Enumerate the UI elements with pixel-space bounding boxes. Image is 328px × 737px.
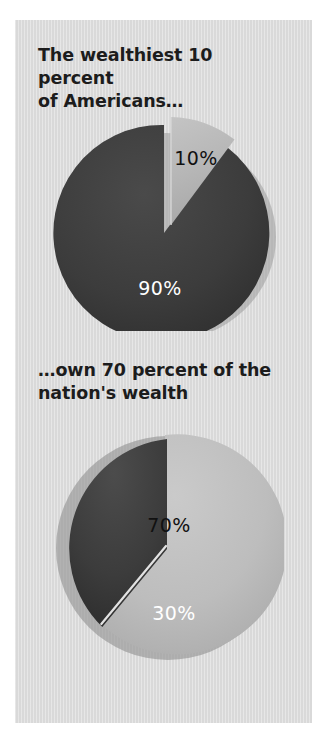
pie-top-label-10: 10% (174, 147, 218, 169)
pie-bottom-label-30: 30% (152, 602, 196, 624)
pie-top-label-90: 90% (138, 277, 182, 299)
pie-bottom-label-70: 70% (147, 514, 191, 536)
pie-top-slice-90 (53, 125, 269, 331)
pie-chart-top: 10% 90% (50, 103, 282, 331)
infographic-page: The wealthiest 10 percent of Americans… (0, 0, 328, 737)
pie-chart-bottom: 70% 30% (48, 424, 284, 672)
caption-bottom: …own 70 percent of the nation's wealth (38, 359, 288, 405)
